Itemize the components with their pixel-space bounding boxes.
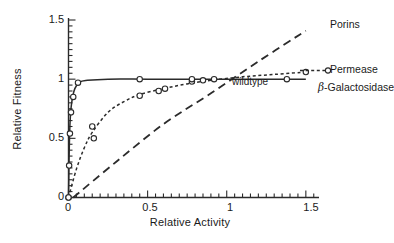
series-line-porins [73,31,306,198]
series-label-permease: Permease [330,63,378,75]
x-tick-label-0.5: 0.5 [135,201,165,213]
series-label-beta-galactosidase: β-Galactosidase [318,81,394,93]
series-markers-beta-galactosidase [66,76,290,200]
x-tick-label-1.5: 1.5 [296,201,326,213]
series-line-beta-galactosidase [69,79,306,197]
series-line-permease [69,72,306,197]
beta-galactosidase-text: -Galactosidase [324,81,394,93]
annotation-wildtype: wildtype [232,76,268,87]
x-tick-label-1: 1 [215,201,245,213]
y-tick-label-0.5: 0.5 [34,131,64,143]
series-label-porins: Porins [330,18,360,30]
y-axis-title: Relative Fitness [11,49,23,169]
y-tick-label-1.5: 1.5 [34,13,64,25]
y-tick-label-1: 1 [34,72,64,84]
x-tick-label-0: 0 [53,201,83,213]
x-axis-title: Relative Activity [130,216,250,228]
series-markers-permease [66,69,309,200]
